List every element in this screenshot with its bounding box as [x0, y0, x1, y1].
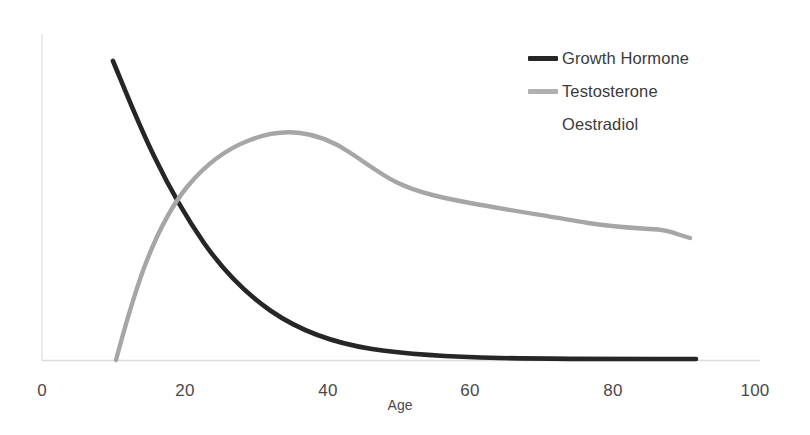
legend-line-swatch-testosterone-icon — [528, 89, 558, 94]
x-tick-label-80: 80 — [603, 381, 622, 401]
x-tick-label-0: 0 — [37, 381, 47, 401]
x-tick-label-100: 100 — [741, 381, 770, 401]
x-tick-label-20: 20 — [175, 381, 194, 401]
legend-item-testosterone[interactable]: Testosterone — [528, 75, 788, 108]
legend-label-growth-hormone: Growth Hormone — [562, 42, 689, 75]
legend-line-swatch-growth-hormone-icon — [528, 56, 558, 61]
x-axis-title: Age — [388, 397, 413, 413]
legend-item-growth-hormone[interactable]: Growth Hormone — [528, 42, 788, 75]
legend-label-oestradiol: Oestradiol — [562, 108, 638, 141]
legend-label-testosterone: Testosterone — [562, 75, 658, 108]
series-line-testosterone — [116, 132, 690, 360]
chart-legend: Growth Hormone Testosterone Oestradiol — [528, 42, 788, 141]
hormone-age-chart: Growth Hormone Testosterone Oestradiol 0… — [0, 0, 810, 435]
legend-item-oestradiol[interactable]: Oestradiol — [528, 108, 788, 141]
legend-line-swatch-oestradiol-icon — [528, 122, 558, 127]
x-tick-label-60: 60 — [460, 381, 479, 401]
x-tick-label-40: 40 — [318, 381, 337, 401]
